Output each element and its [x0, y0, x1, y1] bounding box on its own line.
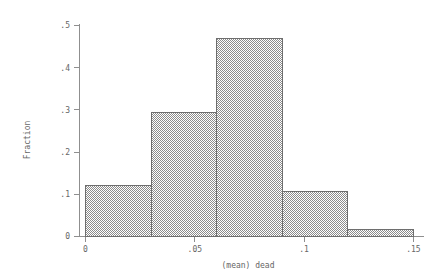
- y-tick-label-5: .5: [60, 21, 70, 30]
- x-tick-label-1: .05: [188, 245, 203, 254]
- y-tick-label-2: .2: [60, 148, 70, 157]
- y-tick-label-1: .1: [60, 190, 70, 199]
- histogram-chart: 0 .1 .2 .3 .4 .5 0 .05 .1 .15 (mean) dea…: [0, 0, 437, 280]
- histogram-bar: [282, 191, 348, 236]
- histogram-bar: [217, 38, 283, 236]
- x-axis-title: (mean) dead: [222, 261, 275, 270]
- histogram-bar: [86, 186, 152, 237]
- y-tick-label-0: 0: [65, 232, 70, 241]
- x-tick-label-2: .1: [299, 245, 309, 254]
- y-tick-label-4: .4: [60, 64, 70, 73]
- histogram-bar: [348, 229, 414, 236]
- y-axis-title: Fraction: [23, 121, 32, 160]
- y-tick-label-3: .3: [60, 106, 70, 115]
- x-tick-label-0: 0: [83, 245, 88, 254]
- histogram-bar: [151, 112, 217, 237]
- x-tick-label-3: .15: [406, 245, 421, 254]
